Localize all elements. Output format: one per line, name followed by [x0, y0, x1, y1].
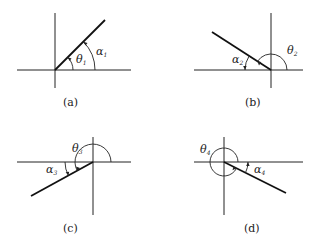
panel-d: θ4 α4 (d)	[194, 137, 303, 235]
theta-label: θ1	[76, 53, 86, 66]
theta-arc	[258, 54, 288, 70]
caption-c: (c)	[63, 222, 78, 235]
alpha-arrow-icon	[246, 162, 249, 166]
theta-label: θ4	[200, 143, 211, 156]
terminal-ray	[31, 162, 93, 196]
alpha-arrow-icon	[243, 66, 246, 70]
caption-b: (b)	[245, 96, 261, 109]
theta-label: θ2	[287, 44, 298, 57]
panel-c: θ3 α3 (c)	[17, 137, 131, 235]
alpha-arrow-icon	[83, 42, 87, 46]
panel-b: θ2 α2 (b)	[194, 13, 303, 109]
caption-a: (a)	[63, 96, 78, 109]
caption-d: (d)	[244, 222, 260, 235]
alpha-label: α3	[46, 163, 57, 176]
alpha-label: α2	[232, 53, 243, 66]
theta-arrow-icon	[68, 57, 72, 61]
theta-label: θ3	[72, 142, 83, 155]
reference-angle-diagrams: θ1 α1 (a) θ2 α2 (b) θ3 α3 (c)	[0, 0, 328, 242]
alpha-label: α4	[254, 163, 265, 176]
panel-a: θ1 α1 (a)	[17, 13, 131, 109]
alpha-label: α1	[96, 45, 107, 58]
